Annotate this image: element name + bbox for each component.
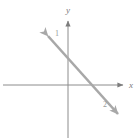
x-axis-label: x — [129, 81, 133, 90]
plotted-line — [48, 36, 118, 114]
graph-canvas — [0, 0, 140, 138]
coordinate-plane-figure: y x 1 2 — [0, 0, 140, 138]
point-label-1: 1 — [55, 30, 59, 38]
point-label-2: 2 — [103, 101, 107, 109]
y-axis-label: y — [66, 6, 70, 15]
